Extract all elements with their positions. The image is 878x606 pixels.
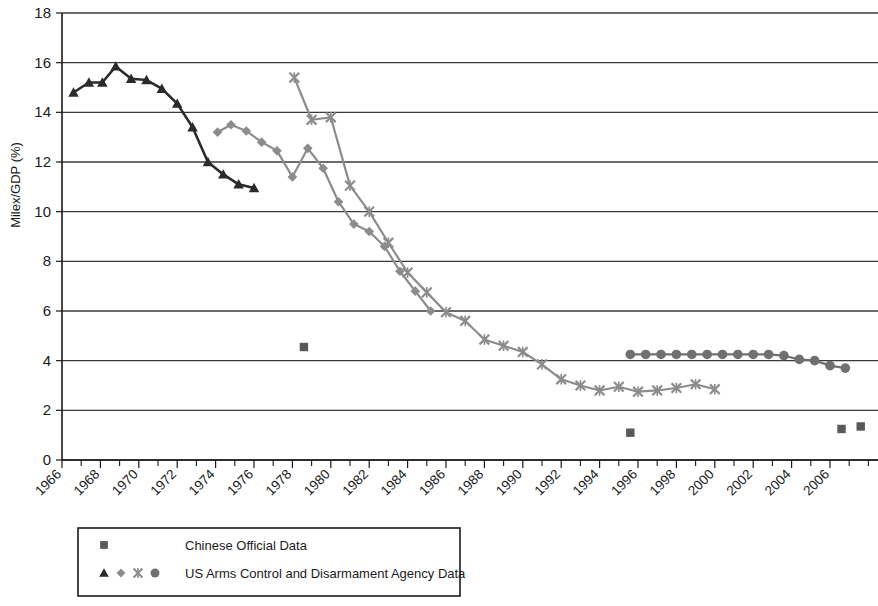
y-tick-label-6: 6 <box>43 302 51 319</box>
marker-circle <box>672 350 682 360</box>
milex-gdp-line-chart: 024681012141618 196619681970197219741976… <box>0 0 878 606</box>
marker-circle <box>656 350 666 360</box>
y-tick-label-4: 4 <box>43 352 51 369</box>
chart-figure: 024681012141618 196619681970197219741976… <box>0 0 878 606</box>
marker-circle <box>687 350 697 360</box>
y-tick-label-0: 0 <box>43 451 51 468</box>
marker-square <box>837 425 845 433</box>
marker-square <box>626 428 634 436</box>
y-tick-label-2: 2 <box>43 401 51 418</box>
marker-circle <box>825 361 835 371</box>
marker-square <box>300 343 308 351</box>
legend-label-1: US Arms Control and Disarmament Agency D… <box>185 566 466 581</box>
marker-square <box>100 541 108 549</box>
marker-circle <box>733 350 743 360</box>
marker-circle <box>764 350 774 360</box>
marker-circle <box>625 350 635 360</box>
y-tick-label-18: 18 <box>34 4 51 21</box>
marker-circle <box>702 350 712 360</box>
y-tick-label-8: 8 <box>43 252 51 269</box>
marker-square <box>857 422 865 430</box>
marker-circle <box>794 355 804 365</box>
chart-background <box>0 0 878 606</box>
y-axis-title: Milex/GDP (%) <box>8 142 23 228</box>
marker-circle <box>641 350 651 360</box>
marker-circle <box>718 350 728 360</box>
y-tick-label-12: 12 <box>34 153 51 170</box>
marker-circle <box>810 356 820 366</box>
marker-circle <box>748 350 758 360</box>
legend-label-0: Chinese Official Data <box>185 538 308 553</box>
y-axis-title-text: Milex/GDP (%) <box>8 142 23 228</box>
marker-circle <box>779 351 789 361</box>
y-tick-label-10: 10 <box>34 203 51 220</box>
y-tick-label-14: 14 <box>34 103 51 120</box>
y-tick-label-16: 16 <box>34 54 51 71</box>
marker-circle <box>151 569 160 578</box>
marker-circle <box>841 363 851 373</box>
